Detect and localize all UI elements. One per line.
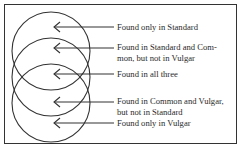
- label-only-standard: Found only in Standard: [117, 22, 198, 33]
- arrow-icon: [54, 69, 114, 79]
- label-line: Found in Common and Vulgar,: [117, 96, 224, 107]
- circle-standard: [12, 12, 90, 90]
- arrow-icon: [54, 43, 114, 53]
- circle-common: [12, 38, 90, 116]
- label-line: Found only in Vulgar: [117, 118, 191, 129]
- label-line: but not in Standard: [117, 107, 224, 118]
- label-line: Found in Standard and Com-: [117, 42, 217, 53]
- label-line: Found only in Standard: [117, 22, 198, 33]
- label-only-vulgar: Found only in Vulgar: [117, 118, 191, 129]
- circle-vulgar: [12, 64, 90, 142]
- label-line: Found in all three: [117, 69, 178, 80]
- label-common-vulgar: Found in Common and Vulgar, but not in S…: [117, 96, 224, 117]
- arrow-icon: [54, 118, 114, 128]
- label-line: mon, but not in Vulgar: [117, 53, 217, 64]
- label-all-three: Found in all three: [117, 69, 178, 80]
- label-standard-common: Found in Standard and Com- mon, but not …: [117, 42, 217, 63]
